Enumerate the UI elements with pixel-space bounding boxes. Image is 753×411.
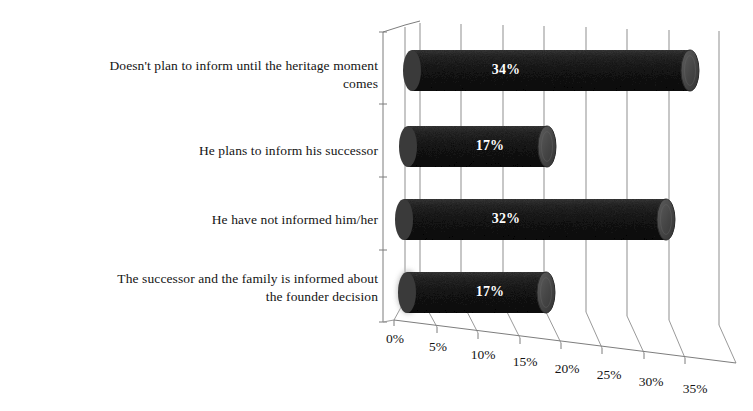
x-tick-label-3: 15% <box>513 354 538 370</box>
axis-corner-bracket <box>383 21 420 32</box>
x-tick-label-6: 30% <box>639 374 664 390</box>
x-tick-label-4: 20% <box>555 361 580 377</box>
bar-2 <box>395 199 675 240</box>
x-tick-label-0: 0% <box>386 331 404 347</box>
category-axis-spine <box>379 32 387 322</box>
bar-3 <box>397 270 555 314</box>
x-tick-label-7: 35% <box>683 381 708 397</box>
chart-container: Doesn't plan to inform until the heritag… <box>0 0 753 411</box>
plot-area <box>0 0 753 411</box>
x-tick-label-5: 25% <box>597 367 622 383</box>
x-tick-label-2: 10% <box>471 347 496 363</box>
x-tick-label-1: 5% <box>429 339 447 355</box>
bar-1 <box>399 126 556 167</box>
bar-0 <box>403 50 699 91</box>
